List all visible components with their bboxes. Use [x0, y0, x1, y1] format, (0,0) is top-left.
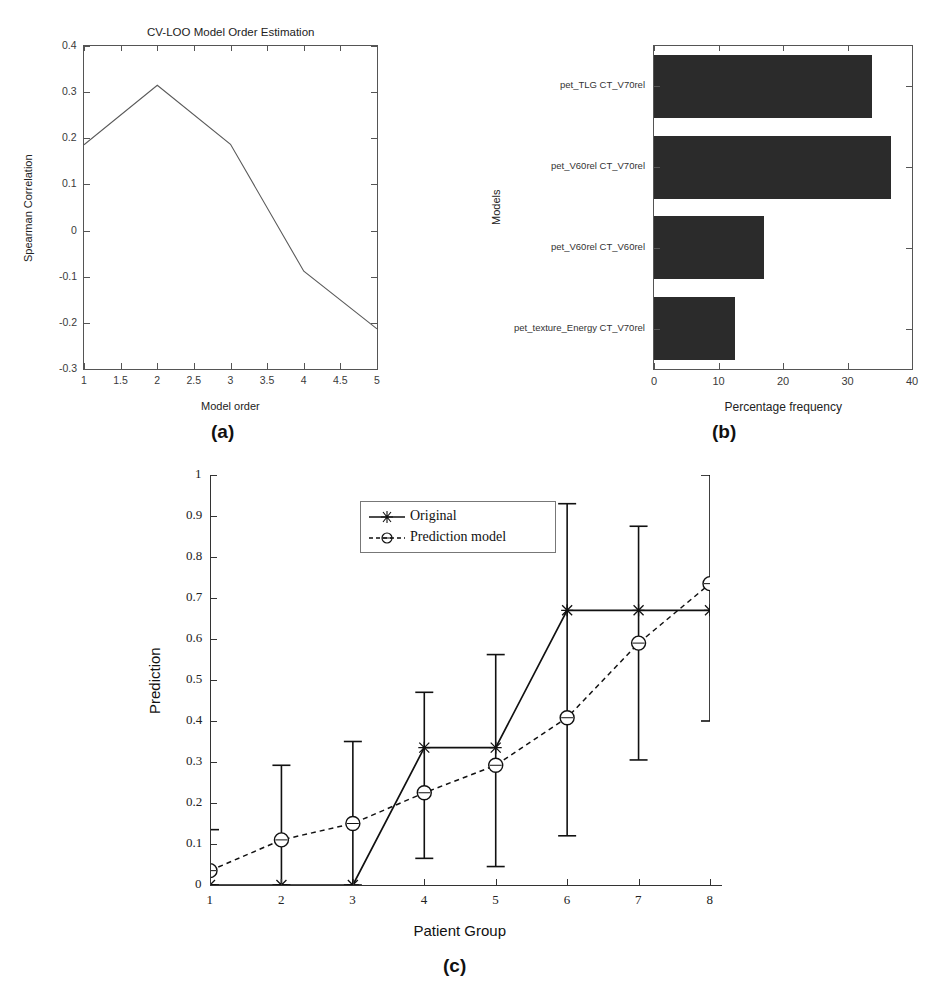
legend-label-original: Original [410, 508, 457, 524]
caption-c: (c) [443, 955, 466, 977]
panel-a-x-tick-label: 1 [81, 374, 87, 386]
panel-b-x-tick-label: 40 [906, 375, 918, 387]
panel-a-y-tick-label: -0.2 [59, 316, 77, 328]
panel-b-category-label: pet_V60rel CT_V60rel [551, 241, 645, 252]
panel-c-y-tick [211, 803, 217, 804]
panel-c-x-tick [210, 879, 211, 885]
panel-a-x-tick-label: 3 [228, 374, 234, 386]
panel-c-y-tick [211, 557, 217, 558]
panel-a-y-tick-right [371, 323, 377, 324]
panel-c-marker-prediction-model [210, 864, 217, 878]
panel-a-x-tick-label: 4 [301, 374, 307, 386]
panel-a-x-tick [377, 363, 378, 369]
panel-c-y-tick-label: 0.6 [186, 630, 202, 646]
panel-c-error-bar [415, 692, 433, 858]
panel-c-marker-original [704, 604, 710, 616]
panel-a-y-tick-label: 0.3 [62, 85, 77, 97]
panel-a-x-axis-label: Model order [201, 400, 260, 412]
panel-b-y-tick-right [906, 167, 912, 168]
panel-b-x-tick-label: 10 [713, 375, 725, 387]
panel-a-y-tick-right [371, 46, 377, 47]
panel-b-y-tick [654, 167, 660, 168]
panel-a-x-tick-label: 2.5 [186, 374, 201, 386]
panel-c-marker-prediction-model [632, 636, 646, 650]
panel-c-y-tick-label: 0.8 [186, 548, 202, 564]
panel-b-x-tick [719, 363, 720, 369]
panel-a-y-tick [84, 277, 90, 278]
caption-a: (a) [211, 421, 234, 443]
panel-c-x-tick [281, 879, 282, 885]
panel-c-y-tick-label: 0.5 [186, 671, 202, 687]
panel-c-x-tick [496, 879, 497, 885]
panel-a-y-tick-right [371, 369, 377, 370]
panel-a-y-tick-label: 0 [71, 224, 77, 236]
panel-b-x-tick-label: 0 [651, 375, 657, 387]
panel-a-x-tick [267, 363, 268, 369]
panel-b-x-tick [783, 363, 784, 369]
panel-a-x-tick-top [304, 45, 305, 51]
panel-a-line-chart: CV-LOO Model Order Estimation Spearman C… [0, 0, 470, 430]
panel-a-x-tick-top [267, 45, 268, 51]
panel-c-x-tick [710, 879, 711, 885]
panel-a-x-tick-label: 3.5 [260, 374, 275, 386]
caption-b: (b) [712, 421, 736, 443]
panel-c-x-tick-label: 5 [492, 892, 499, 908]
panel-c-y-axis-label: Prediction [146, 647, 163, 714]
panel-c-marker-original [561, 604, 573, 616]
panel-c-y-tick [211, 680, 217, 681]
panel-c-x-tick-label: 2 [278, 892, 285, 908]
panel-c-error-bar [272, 765, 290, 885]
panel-a-y-tick-right [371, 184, 377, 185]
panel-b-y-tick [654, 329, 660, 330]
panel-a-y-tick [84, 92, 90, 93]
legend-label-prediction-model: Prediction model [410, 529, 506, 545]
panel-a-title: CV-LOO Model Order Estimation [147, 26, 314, 38]
panel-a-x-tick-top [157, 45, 158, 51]
panel-a-plot-area [83, 45, 378, 370]
panel-c-y-tick-label: 0.7 [186, 589, 202, 605]
panel-c-marker-prediction-model [417, 786, 431, 800]
panel-c-x-axis-label: Patient Group [414, 922, 507, 939]
panel-a-x-tick-top [121, 45, 122, 51]
panel-b-x-tick-top [848, 45, 849, 51]
panel-b-y-tick-right [906, 248, 912, 249]
panel-b-x-tick [654, 363, 655, 369]
panel-c-y-tick [211, 885, 217, 886]
panel-b-bar [654, 55, 872, 118]
panel-b-category-label: pet_texture_Energy CT_V70rel [514, 322, 645, 333]
panel-c-y-tick [211, 844, 217, 845]
panel-c-y-tick-label: 0.9 [186, 507, 202, 523]
panel-c-x-tick [424, 879, 425, 885]
panel-a-y-axis-label: Spearman Correlation [22, 154, 34, 262]
panel-c-errorbar-chart: Prediction Patient Group Original Predic… [0, 440, 927, 994]
panel-c-y-tick [211, 762, 217, 763]
panel-a-x-tick-label: 4.5 [333, 374, 348, 386]
panel-a-y-tick-right [371, 92, 377, 93]
panel-b-bar [654, 216, 764, 279]
panel-c-marker-prediction-model [560, 711, 574, 725]
panel-b-x-tick-top [912, 45, 913, 51]
panel-a-x-tick-top [231, 45, 232, 51]
panel-a-x-tick-label: 5 [374, 374, 380, 386]
panel-a-x-tick [304, 363, 305, 369]
panel-b-x-tick [912, 363, 913, 369]
panel-c-error-bar [701, 475, 710, 721]
panel-a-y-tick-right [371, 138, 377, 139]
panel-a-x-tick [231, 363, 232, 369]
panel-c-y-tick [211, 721, 217, 722]
panel-c-marker-original [418, 742, 430, 754]
panel-c-y-tick-label: 0.1 [186, 835, 202, 851]
panel-c-y-tick [211, 639, 217, 640]
panel-a-y-tick [84, 138, 90, 139]
panel-a-x-tick [121, 363, 122, 369]
panel-c-y-tick-label: 0.3 [186, 753, 202, 769]
panel-a-y-tick [84, 323, 90, 324]
panel-a-series-svg [84, 46, 377, 369]
panel-c-y-tick [211, 475, 217, 476]
panel-a-x-tick-top [340, 45, 341, 51]
panel-c-x-tick-label: 4 [421, 892, 428, 908]
panel-c-x-tick-label: 8 [707, 892, 714, 908]
panel-a-x-tick [340, 363, 341, 369]
panel-a-y-tick-right [371, 231, 377, 232]
panel-c-y-tick [211, 516, 217, 517]
